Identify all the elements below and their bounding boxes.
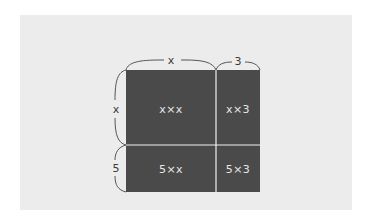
cell-label-5-by-3: 5×3 [226, 164, 251, 175]
area-model-diagram [0, 0, 374, 221]
cell-label-x-by-3: x×3 [226, 104, 250, 115]
top-label-x: x [168, 55, 175, 66]
side-label-x: x [113, 104, 120, 115]
top-label-3: 3 [235, 56, 242, 67]
side-label-5: 5 [113, 163, 120, 174]
cell-label-5-by-x: 5×x [159, 164, 183, 175]
cell-label-x-by-x: x×x [159, 104, 183, 115]
